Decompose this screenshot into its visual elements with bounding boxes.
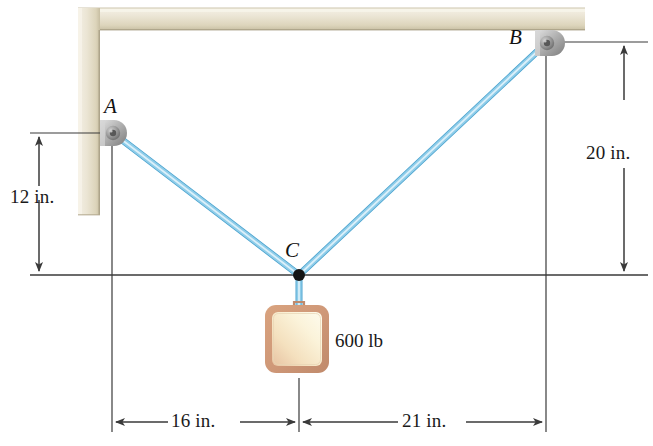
point-label-C: C: [285, 238, 299, 263]
load-label-600lb: 600 lb: [335, 330, 383, 352]
wall-column: [78, 8, 100, 216]
bracket-B: [535, 30, 565, 56]
dimension-label-16in: 16 in.: [171, 410, 215, 432]
cable-BC: [299, 46, 543, 275]
load-block: [265, 302, 329, 373]
dimension-label-12in: 12 in.: [10, 186, 54, 208]
bracket-A: [100, 120, 127, 146]
statics-figure: A B C 12 in. 20 in. 16 in. 21 in. 600 lb: [0, 0, 653, 446]
joint-C-dot: [293, 269, 305, 281]
point-label-B: B: [509, 25, 522, 50]
dimension-label-20in: 20 in.: [586, 142, 630, 164]
point-label-A: A: [104, 94, 117, 119]
dimension-arrows: [39, 46, 624, 422]
dimension-label-21in: 21 in.: [402, 410, 446, 432]
cable-group: [117, 46, 543, 308]
cable-AC: [117, 136, 299, 275]
figure-canvas: [0, 0, 653, 446]
